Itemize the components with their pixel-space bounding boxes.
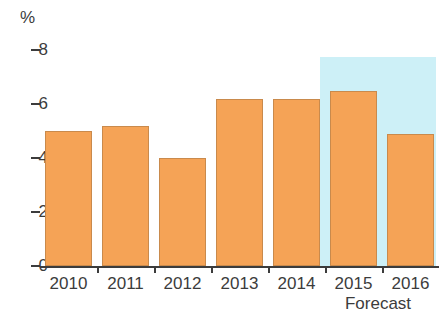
plot-area: 864202010201120122013201420152016 [0, 0, 443, 316]
x-axis-tick-mark [97, 268, 99, 273]
x-axis-tick-mark [268, 268, 270, 273]
x-axis-tick-mark [211, 268, 213, 273]
x-axis-label-2014: 2014 [265, 275, 328, 292]
bar-2012 [159, 158, 206, 266]
y-axis-tick-mark [31, 211, 40, 213]
y-axis-tick-mark [31, 157, 40, 159]
x-axis-label-2011: 2011 [94, 275, 157, 292]
bar-chart: % 864202010201120122013201420152016 Fore… [0, 0, 443, 316]
forecast-caption: Forecast [320, 295, 436, 312]
bar-2016 [387, 134, 434, 266]
x-axis-label-2016: 2016 [379, 275, 442, 292]
y-axis-tick-mark [31, 49, 40, 51]
x-axis-label-2012: 2012 [151, 275, 214, 292]
bar-2014 [273, 99, 320, 266]
x-axis-tick-mark [382, 268, 384, 273]
bar-2010 [45, 131, 92, 266]
y-axis-tick-mark [31, 265, 40, 267]
bar-2015 [330, 91, 377, 267]
y-axis-tick-mark [31, 103, 40, 105]
bar-2011 [102, 126, 149, 266]
x-axis-tick-mark [325, 268, 327, 273]
bar-2013 [216, 99, 263, 266]
x-axis-tick-mark [154, 268, 156, 273]
x-axis-line [40, 266, 439, 268]
x-axis-label-2010: 2010 [37, 275, 100, 292]
x-axis-label-2015: 2015 [322, 275, 385, 292]
x-axis-label-2013: 2013 [208, 275, 271, 292]
